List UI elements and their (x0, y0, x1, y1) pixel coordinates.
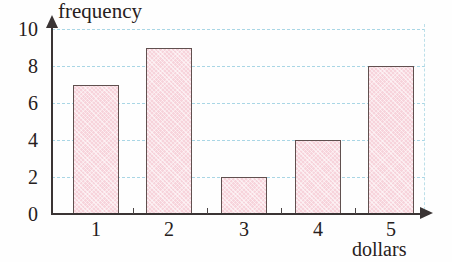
y-axis-line (51, 25, 53, 215)
x-tick-label-1: 1 (76, 218, 116, 240)
bar-category-3 (221, 177, 267, 214)
x-axis-title: dollars (352, 238, 406, 260)
bar-category-5 (368, 66, 414, 214)
y-axis-arrow-icon (46, 15, 58, 28)
x-tick-label-5: 5 (371, 218, 411, 240)
y-tick-label-4: 4 (8, 130, 38, 150)
y-tick-label-10: 10 (8, 19, 38, 39)
y-tick-label-8: 8 (8, 56, 38, 76)
bar-chart-screenshot: 10 8 6 4 2 0 1 2 3 4 5 frequency dollars (0, 0, 452, 262)
bar-category-4 (295, 140, 341, 214)
y-tick-label-2: 2 (8, 167, 38, 187)
chart-plot-area: 10 8 6 4 2 0 1 2 3 4 5 frequency dollars (0, 0, 452, 262)
x-tick-mark (355, 208, 356, 214)
x-tick-mark (281, 208, 282, 214)
x-tick-mark (207, 208, 208, 214)
x-tick-label-2: 2 (149, 218, 189, 240)
x-tick-label-4: 4 (298, 218, 338, 240)
bar-category-1 (73, 85, 119, 215)
bar-category-2 (146, 48, 192, 215)
gridline-right-boundary (424, 24, 425, 215)
gridline-10 (52, 29, 425, 30)
y-axis-title: frequency (58, 0, 142, 23)
y-tick-label-6: 6 (8, 93, 38, 113)
x-tick-mark (133, 208, 134, 214)
x-tick-label-3: 3 (224, 218, 264, 240)
x-axis-line (51, 213, 423, 215)
y-tick-label-0: 0 (8, 204, 38, 224)
x-axis-arrow-icon (420, 207, 433, 219)
